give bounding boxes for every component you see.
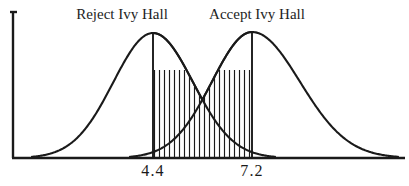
overlap-hatching	[155, 70, 250, 160]
accept-region-label: Accept Ivy Hall	[209, 6, 305, 23]
accept-distribution-curve	[130, 32, 398, 157]
upper-cutoff-tick-label: 7.2	[240, 162, 264, 180]
lower-cutoff-tick-label: 4.4	[141, 162, 165, 180]
reject-region-label: Reject Ivy Hall	[76, 6, 168, 23]
plot-canvas	[0, 0, 409, 186]
distribution-figure: Reject Ivy Hall Accept Ivy Hall 4.4 7.2	[0, 0, 409, 186]
